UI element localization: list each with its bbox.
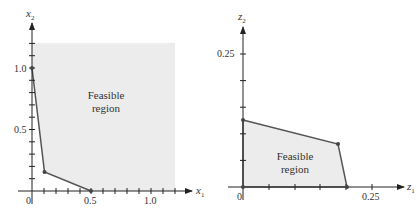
right-region-label-line1: Feasible	[277, 150, 314, 162]
right-y-tick-label-0.25: 0.25	[217, 48, 235, 59]
left-y-axis-label: x2	[25, 7, 35, 22]
left-region-label-line2: region	[92, 102, 121, 114]
right-vertex	[241, 185, 245, 189]
diagram-canvas: 0 0.5 1.0 0.5 1.0 x1 x2 Feasible region …	[0, 0, 417, 212]
left-feasible-region	[32, 43, 175, 191]
right-x-tick-label-0: 0	[237, 191, 242, 202]
right-vertex	[241, 118, 245, 122]
left-y-tick-label-0.5: 0.5	[14, 124, 27, 135]
right-x-tick-label-0.25: 0.25	[362, 191, 380, 202]
left-x-tick-label-1.0: 1.0	[144, 195, 157, 206]
left-x-tick-label-0.5: 0.5	[84, 195, 97, 206]
left-y-tick-label-1.0: 1.0	[14, 63, 27, 74]
left-x-tick-label-0: 0	[26, 195, 31, 206]
left-vertex	[30, 66, 34, 70]
left-region-label-line1: Feasible	[88, 89, 125, 101]
left-vertex	[43, 170, 47, 174]
right-vertex	[336, 142, 340, 146]
left-vertex	[89, 189, 93, 193]
right-region-label-line2: region	[281, 163, 310, 175]
right-x-axis-label: z1	[406, 180, 415, 195]
left-diagram: 0 0.5 1.0 0.5 1.0 x1 x2 Feasible region	[14, 7, 205, 206]
right-y-axis-label: z2	[237, 10, 246, 25]
right-diagram: 0 0.25 0.25 z1 z2 Feasible region	[217, 10, 415, 202]
right-vertex	[345, 185, 349, 189]
left-x-axis-label: x1	[195, 184, 205, 199]
